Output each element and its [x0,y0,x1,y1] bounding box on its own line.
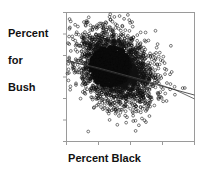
data-point [101,51,104,54]
data-point [121,61,124,64]
data-point [115,46,118,49]
x-axis-label: Percent Black [0,152,209,164]
data-point [97,52,100,55]
y-axis-ticks [63,13,67,142]
data-point [99,75,102,78]
data-point [118,67,121,70]
scatter-plot-svg [0,0,209,171]
data-point [100,47,103,50]
data-point [107,83,110,86]
data-point [123,54,126,57]
data-point [115,74,118,77]
data-point [117,78,120,81]
data-point [90,61,93,64]
data-point [114,83,117,86]
data-point [118,51,121,54]
data-point [113,60,116,63]
data-point [96,55,99,58]
data-point [125,67,128,70]
data-point [107,72,110,75]
data-point [118,55,121,58]
data-point [106,54,109,57]
data-point [95,77,98,80]
figure-container: Percent for Bush Percent Black [0,0,209,171]
data-point [111,65,114,68]
data-point [120,78,123,81]
data-point [90,57,93,60]
data-point [123,58,126,61]
data-point [129,64,132,67]
data-point [108,76,111,79]
data-point [114,67,117,70]
data-point [93,56,96,59]
data-point [104,79,107,82]
data-point [116,58,119,61]
data-point [103,75,106,78]
data-point [126,61,129,64]
data-point [110,82,113,85]
data-point [109,86,112,89]
data-point [110,55,113,58]
data-point [96,73,99,76]
data-point [103,48,106,51]
data-point [112,45,115,48]
data-point [101,60,104,63]
data-point [120,81,123,84]
data-point [107,65,110,68]
data-point [109,51,112,54]
plot-area [0,0,209,171]
x-axis-ticks [67,142,195,146]
data-point [98,78,101,81]
data-point [101,64,104,67]
